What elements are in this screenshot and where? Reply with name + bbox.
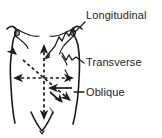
axis-oblique-small-line <box>50 92 60 101</box>
left-nipple-center <box>16 32 17 33</box>
right-torso-contour <box>73 26 82 124</box>
right-breast-fold <box>60 35 75 54</box>
right-nipple-center <box>72 32 73 33</box>
label-longitudinal: Longitudinal <box>86 9 147 21</box>
navel-hint <box>50 108 53 114</box>
left-torso-contour <box>7 26 16 123</box>
label-oblique: Oblique <box>86 86 125 98</box>
diagram-svg: Longitudinal Transverse Oblique <box>0 0 162 138</box>
scanning-planes-figure: Longitudinal Transverse Oblique <box>0 0 162 138</box>
left-breast-fold <box>15 35 29 49</box>
axis-transverse-arrow-right <box>64 74 74 82</box>
label-transverse: Transverse <box>86 56 142 68</box>
axis-oblique-arrow-nw <box>7 45 20 58</box>
